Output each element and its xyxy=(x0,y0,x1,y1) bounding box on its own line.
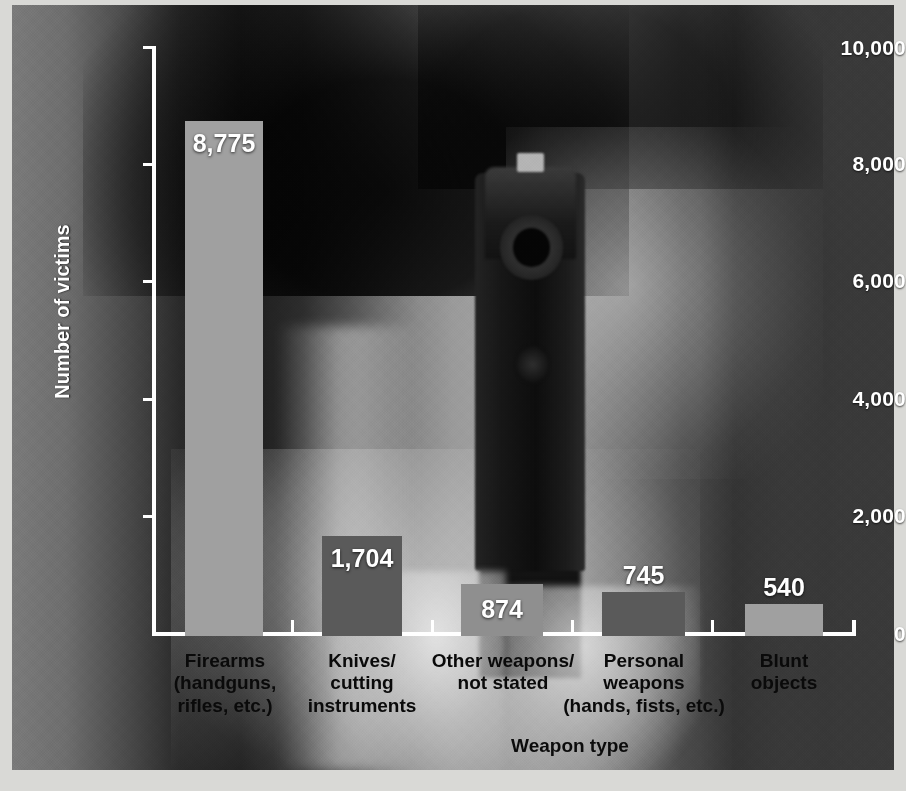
x-tick-1 xyxy=(291,620,294,633)
y-tick-2000 xyxy=(143,515,155,518)
category-label-other-weapons-line2: not stated xyxy=(424,672,582,694)
category-label-personal-weapons: Personal weapons (hands, fists, etc.) xyxy=(566,650,722,717)
category-label-blunt-objects: Blunt objects xyxy=(714,650,854,695)
y-tick-label-4000: 4,000 xyxy=(766,387,906,411)
category-label-knives-line2: cutting xyxy=(292,672,432,694)
y-tick-label-2000: 2,000 xyxy=(766,504,906,528)
y-axis-line xyxy=(152,46,156,636)
category-label-blunt-objects-line2: objects xyxy=(714,672,854,694)
y-tick-4000 xyxy=(143,398,155,401)
category-label-other-weapons-line1: Other weapons/ xyxy=(424,650,582,672)
x-tick-4 xyxy=(711,620,714,633)
category-label-firearms-line2: (handguns, xyxy=(152,672,298,694)
category-label-knives: Knives/ cutting instruments xyxy=(292,650,432,717)
bar-value-personal-weapons: 745 xyxy=(623,561,665,590)
x-tick-3 xyxy=(571,620,574,633)
category-label-knives-line3: instruments xyxy=(292,695,432,717)
y-tick-label-6000: 6,000 xyxy=(766,269,906,293)
category-label-firearms: Firearms (handguns, rifles, etc.) xyxy=(152,650,298,717)
bar-value-firearms: 8,775 xyxy=(193,129,256,158)
bar-value-other-weapons: 874 xyxy=(481,595,523,624)
bar-personal-weapons[interactable] xyxy=(602,592,685,636)
x-axis-left-endcap xyxy=(152,620,156,636)
category-label-personal-weapons-line1: Personal xyxy=(566,650,722,672)
y-tick-label-8000: 8,000 xyxy=(766,152,906,176)
bar-blunt-objects[interactable] xyxy=(745,604,823,636)
x-axis-title: Weapon type xyxy=(430,735,710,757)
bar-value-blunt-objects: 540 xyxy=(763,573,805,602)
category-label-knives-line1: Knives/ xyxy=(292,650,432,672)
chart-overlay: 10,000 8,000 6,000 4,000 2,000 0 Number … xyxy=(0,0,906,791)
category-label-personal-weapons-line2: weapons xyxy=(566,672,722,694)
y-tick-label-10000: 10,000 xyxy=(766,36,906,60)
category-label-personal-weapons-line3: (hands, fists, etc.) xyxy=(514,695,774,717)
y-tick-8000 xyxy=(143,163,155,166)
y-axis-title: Number of victims xyxy=(51,192,74,432)
y-tick-6000 xyxy=(143,280,155,283)
category-label-other-weapons: Other weapons/ not stated xyxy=(424,650,582,695)
bar-value-knives: 1,704 xyxy=(331,544,394,573)
chart-figure: 10,000 8,000 6,000 4,000 2,000 0 Number … xyxy=(0,0,906,791)
y-tick-10000 xyxy=(143,46,155,49)
category-label-firearms-line1: Firearms xyxy=(152,650,298,672)
category-label-blunt-objects-line1: Blunt xyxy=(714,650,854,672)
bar-firearms[interactable] xyxy=(185,121,263,636)
x-tick-2 xyxy=(431,620,434,633)
category-label-firearms-line3: rifles, etc.) xyxy=(152,695,298,717)
